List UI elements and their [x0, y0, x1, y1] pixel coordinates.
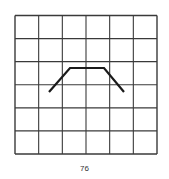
page-number: 76: [0, 164, 169, 174]
grid-diagram: [0, 0, 169, 179]
grid-lines: [15, 16, 157, 155]
